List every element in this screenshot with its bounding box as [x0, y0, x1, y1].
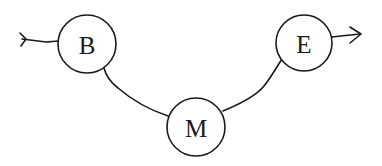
node-m-label: M [185, 115, 207, 142]
node-e[interactable]: E [276, 15, 332, 71]
incoming-edge-to-b [20, 33, 58, 46]
outgoing-edge-from-e [332, 27, 361, 43]
node-b-label: B [79, 32, 96, 59]
edge-m-to-e [223, 59, 282, 111]
node-m[interactable]: M [167, 98, 225, 156]
path-diagram: B M E [0, 0, 382, 166]
node-b[interactable]: B [58, 15, 116, 73]
node-e-label: E [296, 31, 311, 58]
edge-b-to-m [104, 68, 168, 116]
